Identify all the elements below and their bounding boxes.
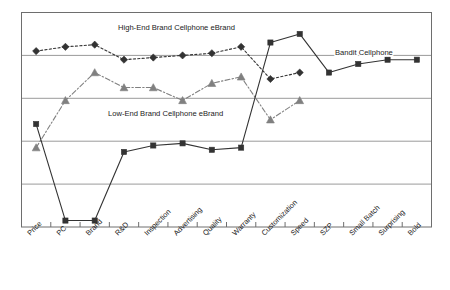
line-chart: High-End Brand Cellphone eBrandHigh-End … — [0, 0, 450, 290]
data-point-marker — [63, 218, 68, 223]
data-point-marker — [385, 57, 390, 62]
data-point-marker — [239, 145, 244, 150]
chart-background — [0, 0, 450, 290]
data-point-marker — [121, 149, 126, 154]
data-point-marker — [268, 40, 273, 45]
series-annotation-3: Bandit Cellphone — [335, 48, 393, 57]
data-point-marker — [209, 147, 214, 152]
data-point-marker — [180, 141, 185, 146]
chart-container: High-End Brand Cellphone eBrandHigh-End … — [0, 0, 450, 290]
data-point-marker — [297, 31, 302, 36]
series-annotation-2: Low-End Brand Cellphone eBrand — [108, 109, 223, 118]
data-point-marker — [414, 57, 419, 62]
data-point-marker — [326, 70, 331, 75]
data-point-marker — [151, 143, 156, 148]
data-point-marker — [356, 61, 361, 66]
data-point-marker — [34, 121, 39, 126]
series-annotation-1: High-End Brand Cellphone eBrand — [118, 23, 235, 32]
